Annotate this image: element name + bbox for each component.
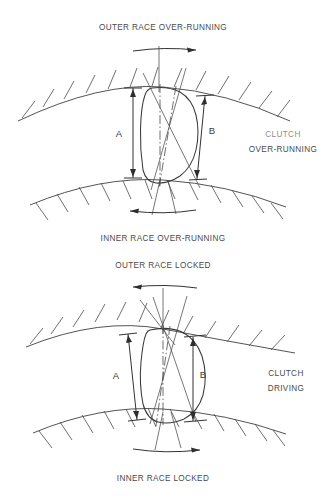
panel2-outer-race bbox=[26, 302, 295, 353]
panel1-sprag bbox=[140, 84, 198, 188]
panel-locked: OUTER RACE LOCKED bbox=[26, 261, 304, 483]
panel2-inner-race-arrow bbox=[133, 448, 200, 453]
panel1-sprag-centerline-tilted bbox=[159, 86, 176, 188]
panel2-side-label-line1: CLUTCH bbox=[268, 369, 303, 378]
panel1-inner-race-label: INNER RACE OVER-RUNNING bbox=[101, 234, 226, 243]
panel2-side-label-line2: DRIVING bbox=[268, 384, 305, 393]
clutch-operation-figure: OUTER RACE OVER-RUNNING bbox=[0, 0, 327, 503]
panel2-inner-race-hatching bbox=[39, 408, 285, 448]
panel1-outer-race-label: OUTER RACE OVER-RUNNING bbox=[99, 23, 227, 32]
panel2-outer-race-arrow bbox=[133, 285, 197, 290]
panel-over-running: OUTER RACE OVER-RUNNING bbox=[18, 23, 317, 243]
panel2-dimension-b-label: B bbox=[200, 369, 206, 380]
panel1-inner-race bbox=[30, 180, 286, 220]
panel2-dimension-b: B bbox=[184, 335, 207, 422]
panel2-dimension-a: A bbox=[113, 333, 146, 421]
panel1-side-label-line2: OVER-RUNNING bbox=[249, 145, 317, 154]
panel1-outer-race-arrow bbox=[133, 48, 196, 53]
panel1-side-label-line1: CLUTCH bbox=[265, 130, 300, 139]
panel1-construction-lines bbox=[143, 46, 200, 215]
panel1-outer-race bbox=[18, 67, 290, 121]
panel1-inner-race-arrow bbox=[130, 209, 196, 214]
panel1-dimension-b: B bbox=[189, 95, 215, 180]
panel1-dimension-a: A bbox=[116, 88, 142, 178]
panel2-inner-race-label: INNER RACE LOCKED bbox=[117, 474, 209, 483]
panel1-dimension-a-label: A bbox=[116, 128, 123, 139]
panel2-sprag bbox=[140, 325, 205, 426]
panel1-outer-race-hatching bbox=[22, 67, 290, 118]
panel2-outer-race-label: OUTER RACE LOCKED bbox=[115, 261, 211, 270]
panel1-dimension-b-label: B bbox=[209, 125, 215, 136]
panel2-dimension-a-label: A bbox=[113, 370, 120, 381]
